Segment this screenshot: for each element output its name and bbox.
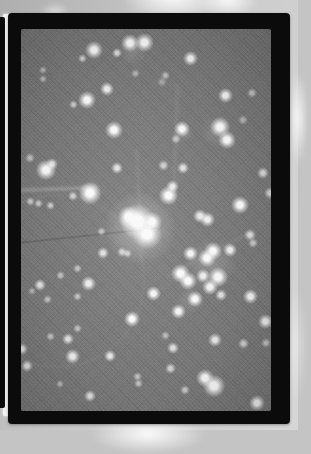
star-halo [173,122,193,142]
star [158,160,169,171]
star [196,369,214,387]
star [133,372,142,381]
star [174,121,190,137]
star [124,311,140,327]
star [171,134,181,144]
star [165,363,176,374]
star-halo [119,37,147,65]
star [56,380,64,388]
star [36,160,56,180]
star [39,75,47,83]
star [223,243,237,257]
star [258,314,272,329]
grain-overlay [21,29,271,411]
star [210,117,230,137]
star [204,242,222,260]
star [132,219,162,249]
star-halo [35,159,57,181]
star [97,247,110,260]
star [78,91,96,109]
star-halo [77,180,103,206]
star [105,121,123,139]
star [238,338,249,349]
star-halo [185,238,237,290]
star [218,88,233,103]
star [26,197,35,206]
star [132,214,145,227]
star [198,249,216,267]
star [78,54,87,63]
star [193,209,207,223]
star [46,158,59,171]
star [65,349,80,364]
star [73,324,82,333]
star [21,360,33,373]
star [203,375,226,398]
star [231,196,249,214]
streak-artifact [21,227,159,245]
star [46,332,55,341]
star [56,271,65,280]
vignette-overlay [21,29,271,411]
star [161,331,170,340]
star [134,379,143,388]
star [121,34,139,52]
star-halo [177,286,205,314]
star [73,264,82,273]
star [171,264,190,283]
star-halo [201,115,233,147]
star [79,182,102,205]
star [244,229,257,242]
star [142,212,162,232]
star [218,131,236,149]
lens-arc-artifact [21,194,145,368]
streak-artifact [172,84,179,204]
streak-artifact [135,149,144,259]
star-halo [202,374,226,398]
star [62,333,75,346]
star-halo [158,185,178,205]
star [46,201,55,210]
star [183,51,198,66]
adjacent-photo-edge [0,17,5,408]
star [120,204,155,239]
star [135,33,154,52]
star-halo [104,192,176,264]
star [248,238,258,248]
star [159,186,178,205]
star [43,295,52,304]
starfield-photo [21,29,271,411]
star [28,287,36,295]
star [238,115,248,125]
star [118,206,141,229]
star [257,167,270,180]
star [249,395,265,411]
star [117,247,127,257]
star [180,385,190,395]
star [167,342,180,355]
star [112,48,122,58]
star [166,180,179,193]
star [69,100,78,109]
streak-artifact [166,233,247,277]
star [208,267,228,287]
streak-artifact [21,186,97,193]
star [123,249,132,258]
star [208,333,222,347]
star [131,69,140,78]
star [34,279,47,292]
star [34,199,43,208]
glare-spot [288,70,308,166]
star [196,269,210,283]
star [200,212,215,227]
star [111,162,124,175]
star [202,279,218,295]
star [97,227,106,236]
star [157,77,167,87]
star [104,350,117,363]
star [261,338,271,348]
star [161,71,170,80]
star [215,289,228,302]
star [21,343,28,356]
